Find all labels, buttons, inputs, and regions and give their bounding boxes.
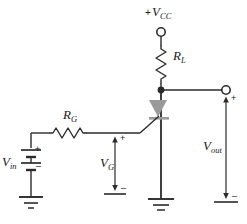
vout-arrow-head-up — [223, 97, 229, 103]
vout-subscript: out — [211, 145, 223, 155]
rl-symbol: R — [172, 48, 181, 63]
source-ground-symbol — [148, 199, 174, 210]
vg-plus-sign: + — [120, 133, 125, 143]
rg-subscript: G — [71, 114, 77, 124]
vin-subscript: in — [10, 161, 17, 171]
vg-minus-sign: – — [121, 183, 126, 193]
vg-subscript: G — [108, 162, 114, 172]
rg-label: R G — [62, 107, 77, 124]
vcc-terminal-icon[interactable] — [157, 28, 165, 36]
vin-minus-sign: – — [36, 161, 41, 171]
vcc-plus-sign: + — [145, 7, 151, 18]
input-ground-symbol — [19, 197, 43, 208]
output-branch — [161, 86, 238, 202]
vg-arrow-head-up — [112, 137, 118, 143]
vout-arrow-head-down — [223, 193, 229, 199]
rl-subscript: L — [180, 55, 186, 65]
jfet-gate-arrow-icon — [149, 100, 167, 117]
vin-label: V in — [2, 154, 17, 171]
vg-label: V G — [100, 155, 114, 172]
load-resistor-symbol — [156, 46, 166, 83]
input-battery-symbol — [21, 150, 41, 196]
vcc-label: + V CC — [145, 4, 172, 21]
vin-plus-sign: + — [35, 144, 40, 154]
vg-arrow-head-down — [112, 185, 118, 191]
vout-minus-sign: – — [232, 191, 237, 201]
rl-label: R L — [172, 48, 186, 65]
circuit-schematic-canvas: + V CC R L R G V G V in V out + — [0, 0, 247, 224]
gate-resistor-symbol — [50, 128, 86, 138]
vout-plus-sign: + — [231, 93, 236, 103]
jfet-transistor-symbol — [140, 90, 169, 198]
vout-label: V out — [203, 138, 223, 155]
supply-branch — [156, 28, 166, 94]
output-terminal-icon[interactable] — [222, 86, 230, 94]
vcc-subscript: CC — [160, 11, 172, 21]
rg-symbol: R — [62, 107, 71, 122]
circuit-diagram-figure: + V CC R L R G V G V in V out + — [0, 0, 247, 224]
jfet-gate-bar — [149, 117, 169, 120]
